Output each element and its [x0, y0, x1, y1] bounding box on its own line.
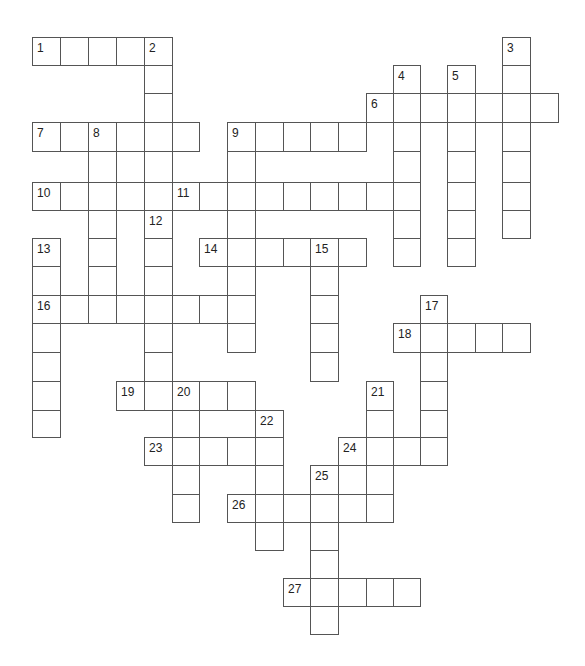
letter-input[interactable] — [284, 579, 310, 606]
letter-input[interactable] — [200, 239, 227, 266]
letter-input[interactable] — [173, 466, 199, 494]
grid-cell-r6-c4[interactable]: 12 — [144, 210, 173, 239]
grid-cell-r12-c7[interactable] — [227, 381, 256, 411]
letter-input[interactable] — [33, 353, 60, 381]
grid-cell-r3-c0[interactable]: 7 — [32, 122, 61, 152]
grid-cell-r4-c17[interactable] — [502, 151, 531, 183]
letter-input[interactable] — [200, 183, 227, 210]
letter-input[interactable] — [339, 438, 366, 465]
letter-input[interactable] — [394, 579, 420, 606]
letter-input[interactable] — [256, 466, 283, 494]
grid-cell-r5-c7[interactable] — [227, 182, 256, 211]
grid-cell-r14-c14[interactable] — [420, 437, 448, 466]
grid-cell-r0-c1[interactable] — [60, 37, 89, 66]
grid-cell-r13-c5[interactable] — [172, 410, 200, 438]
letter-input[interactable] — [284, 183, 310, 210]
letter-input[interactable] — [89, 183, 116, 210]
grid-cell-r19-c13[interactable] — [393, 578, 421, 607]
grid-cell-r13-c14[interactable] — [420, 410, 448, 438]
grid-cell-r7-c8[interactable] — [255, 238, 284, 267]
letter-input[interactable] — [503, 183, 530, 210]
letter-input[interactable] — [503, 94, 530, 122]
letter-input[interactable] — [367, 411, 393, 437]
grid-cell-r14-c13[interactable] — [393, 437, 421, 466]
letter-input[interactable] — [89, 123, 116, 151]
grid-cell-r16-c11[interactable] — [338, 494, 367, 523]
grid-cell-r16-c8[interactable] — [255, 494, 284, 523]
grid-cell-r8-c0[interactable] — [32, 266, 61, 296]
letter-input[interactable] — [284, 495, 310, 522]
letter-input[interactable] — [145, 123, 172, 151]
letter-input[interactable] — [367, 183, 393, 210]
grid-cell-r3-c2[interactable]: 8 — [88, 122, 117, 152]
grid-cell-r14-c8[interactable] — [255, 437, 284, 466]
grid-cell-r5-c1[interactable] — [60, 182, 89, 211]
letter-input[interactable] — [339, 495, 366, 522]
grid-cell-r5-c12[interactable] — [366, 182, 394, 211]
letter-input[interactable] — [200, 382, 227, 410]
grid-cell-r19-c11[interactable] — [338, 578, 367, 607]
letter-input[interactable] — [394, 438, 420, 465]
grid-cell-r19-c10[interactable] — [310, 578, 339, 607]
letter-input[interactable] — [228, 239, 255, 266]
grid-cell-r11-c4[interactable] — [144, 352, 173, 382]
grid-cell-r2-c14[interactable] — [420, 93, 448, 123]
grid-cell-r2-c13[interactable] — [393, 93, 421, 123]
letter-input[interactable] — [228, 296, 255, 323]
letter-input[interactable] — [33, 411, 60, 437]
letter-input[interactable] — [394, 123, 420, 151]
grid-cell-r7-c13[interactable] — [393, 238, 421, 267]
grid-cell-r12-c12[interactable]: 21 — [366, 381, 394, 411]
letter-input[interactable] — [256, 123, 283, 151]
grid-cell-r3-c7[interactable]: 9 — [227, 122, 256, 152]
grid-cell-r8-c2[interactable] — [88, 266, 117, 296]
letter-input[interactable] — [33, 38, 60, 65]
grid-cell-r7-c4[interactable] — [144, 238, 173, 267]
grid-cell-r3-c11[interactable] — [338, 122, 367, 152]
grid-cell-r16-c5[interactable] — [172, 494, 200, 523]
letter-input[interactable] — [145, 382, 172, 410]
letter-input[interactable] — [367, 438, 393, 465]
letter-input[interactable] — [256, 523, 283, 550]
grid-cell-r14-c4[interactable]: 23 — [144, 437, 173, 466]
letter-input[interactable] — [311, 551, 338, 578]
letter-input[interactable] — [145, 267, 172, 295]
letter-input[interactable] — [448, 239, 475, 266]
letter-input[interactable] — [367, 382, 393, 410]
grid-cell-r3-c15[interactable] — [447, 122, 476, 152]
letter-input[interactable] — [89, 239, 116, 266]
letter-input[interactable] — [173, 296, 199, 323]
letter-input[interactable] — [200, 438, 227, 465]
letter-input[interactable] — [256, 239, 283, 266]
grid-cell-r14-c11[interactable]: 24 — [338, 437, 367, 466]
letter-input[interactable] — [503, 211, 530, 238]
grid-cell-r2-c15[interactable] — [447, 93, 476, 123]
grid-cell-r3-c3[interactable] — [116, 122, 145, 152]
letter-input[interactable] — [228, 123, 255, 151]
letter-input[interactable] — [89, 267, 116, 295]
grid-cell-r10-c7[interactable] — [227, 323, 256, 353]
grid-cell-r1-c4[interactable] — [144, 65, 173, 94]
grid-cell-r6-c13[interactable] — [393, 210, 421, 239]
grid-cell-r18-c10[interactable] — [310, 550, 339, 579]
letter-input[interactable] — [61, 183, 88, 210]
grid-cell-r20-c10[interactable] — [310, 606, 339, 635]
letter-input[interactable] — [448, 152, 475, 182]
letter-input[interactable] — [145, 324, 172, 352]
letter-input[interactable] — [503, 66, 530, 93]
grid-cell-r6-c7[interactable] — [227, 210, 256, 239]
grid-cell-r5-c3[interactable] — [116, 182, 145, 211]
letter-input[interactable] — [145, 94, 172, 122]
grid-cell-r16-c12[interactable] — [366, 494, 394, 523]
grid-cell-r3-c1[interactable] — [60, 122, 89, 152]
grid-cell-r5-c0[interactable]: 10 — [32, 182, 61, 211]
grid-cell-r5-c2[interactable] — [88, 182, 117, 211]
grid-cell-r7-c11[interactable] — [338, 238, 367, 267]
grid-cell-r5-c5[interactable]: 11 — [172, 182, 200, 211]
grid-cell-r12-c6[interactable] — [199, 381, 228, 411]
letter-input[interactable] — [339, 123, 366, 151]
grid-cell-r0-c3[interactable] — [116, 37, 145, 66]
letter-input[interactable] — [394, 211, 420, 238]
letter-input[interactable] — [89, 211, 116, 238]
letter-input[interactable] — [311, 123, 338, 151]
